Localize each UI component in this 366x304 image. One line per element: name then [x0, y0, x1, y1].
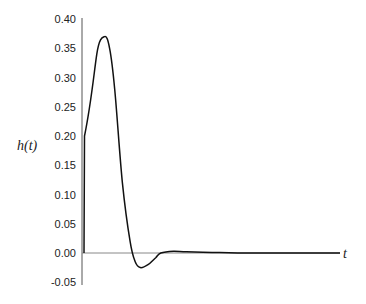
response-curve	[84, 36, 340, 267]
y-tick-label: 0.10	[55, 189, 76, 201]
y-axis-tick-labels: 0.400.350.300.250.200.150.100.050.00-0.0…	[51, 13, 76, 288]
y-tick-label: 0.15	[55, 159, 76, 171]
y-tick-label: -0.05	[51, 276, 76, 288]
y-tick-label: 0.00	[55, 247, 76, 259]
y-tick-label: 0.25	[55, 101, 76, 113]
y-tick-label: 0.35	[55, 42, 76, 54]
y-tick-label: 0.05	[55, 218, 76, 230]
x-axis-label: t	[343, 246, 348, 261]
y-tick-label: 0.30	[55, 72, 76, 84]
impulse-response-chart: 0.400.350.300.250.200.150.100.050.00-0.0…	[0, 0, 366, 304]
y-tick-label: 0.20	[55, 130, 76, 142]
y-axis-label: h(t)	[17, 138, 38, 154]
y-tick-label: 0.40	[55, 13, 76, 25]
